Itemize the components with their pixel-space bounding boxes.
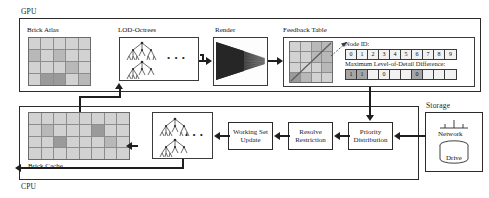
lod-difference-cell: 0	[379, 70, 390, 79]
brick-atlas-cell	[41, 38, 52, 49]
cpu-octree-trees-icon	[153, 113, 214, 160]
brick-cache-cell	[42, 148, 54, 159]
network-label: Network	[438, 130, 463, 138]
lod-difference-cell: 1	[357, 70, 368, 79]
brick-atlas-cell	[54, 62, 65, 73]
conn-cache-to-atlas-v2	[119, 88, 121, 98]
conn-octree-to-render-h	[200, 54, 204, 56]
brick-atlas-cell	[79, 38, 90, 49]
brick-cache-cell	[54, 137, 66, 148]
node-id-cell: 1	[357, 50, 368, 59]
brick-cache-cell	[67, 125, 79, 136]
conn-feedback-to-priority	[369, 99, 371, 115]
brick-cache-cell	[67, 148, 79, 159]
brick-atlas-cell	[79, 74, 90, 85]
conn-cache-to-atlas-v	[79, 96, 81, 112]
brick-atlas-cell	[29, 50, 40, 61]
working-set-update-line2: Update	[233, 136, 268, 145]
brick-cache-cell	[80, 125, 92, 136]
brick-atlas-cell	[41, 50, 52, 61]
brick-cache-cell	[29, 137, 41, 148]
lod-difference-cell	[390, 70, 401, 79]
brick-cache-cell	[80, 113, 92, 124]
conn-storage-to-priority	[400, 135, 426, 137]
brick-cache-cell	[67, 137, 79, 148]
brick-cache-cell	[117, 113, 129, 124]
brick-cache-cell	[92, 125, 104, 136]
brick-atlas-cell	[79, 62, 90, 73]
arrowhead-to-cpu-octree	[214, 132, 220, 140]
priority-distribution-line1: Priority	[354, 128, 388, 137]
brick-cache-cell	[92, 148, 104, 159]
storage-region-label: Storage	[426, 101, 450, 110]
brick-atlas-cell	[41, 62, 52, 73]
node-id-cell: 8	[434, 50, 445, 59]
brick-cache-cell	[54, 125, 66, 136]
feedback-diagonal-icon	[289, 41, 333, 83]
node-id-cell: 2	[368, 50, 379, 59]
resolve-restriction-box[interactable]: Resolve Restriction	[288, 122, 333, 150]
working-set-update-line1: Working Set	[233, 128, 268, 137]
brick-cache-cell	[117, 125, 129, 136]
brick-cache-cell	[54, 148, 66, 159]
brick-atlas-cell	[41, 74, 52, 85]
conn-priority-to-resolve	[340, 135, 350, 137]
conn-cache-to-atlas-h	[79, 96, 121, 98]
brick-cache-cell	[67, 113, 79, 124]
render-preview-image	[214, 38, 267, 85]
conn-working-to-octree	[220, 135, 230, 137]
node-id-cell: 6	[412, 50, 423, 59]
node-id-cell: 3	[379, 50, 390, 59]
brick-cache-cell	[29, 125, 41, 136]
brick-cache-grid	[28, 112, 130, 160]
brick-atlas-cell	[66, 38, 77, 49]
lod-difference-cell: 0	[412, 70, 423, 79]
resolve-restriction-line2: Restriction	[295, 136, 326, 145]
brick-cache-cell	[105, 125, 117, 136]
lod-difference-cell	[445, 70, 456, 79]
arrowhead-to-render	[206, 57, 212, 65]
diagram-canvas: GPU Brick Atlas LOD-Octrees	[0, 0, 489, 198]
gpu-region-label: GPU	[21, 7, 37, 16]
brick-atlas-grid	[28, 37, 91, 86]
brick-cache-cell	[42, 137, 54, 148]
node-id-cell: 5	[401, 50, 412, 59]
node-id-cell: 9	[445, 50, 456, 59]
octree-trees-icon	[120, 38, 200, 82]
node-id-cell: 7	[423, 50, 434, 59]
brick-atlas-label: Brick Atlas	[27, 26, 59, 34]
arrowhead-into-brick-cache	[126, 142, 132, 150]
brick-atlas-cell	[54, 38, 65, 49]
brick-atlas-cell	[66, 74, 77, 85]
brick-cache-cell	[80, 148, 92, 159]
lod-octrees-label: LOD-Octrees	[118, 26, 156, 34]
cpu-lod-octrees-ellipsis: • • •	[185, 130, 204, 140]
network-antenna-icon	[436, 117, 472, 131]
conn-resolve-to-working	[280, 135, 290, 137]
render-box	[213, 37, 268, 86]
drive-label: Drive	[446, 154, 462, 162]
lod-difference-strip: 1100	[345, 69, 457, 80]
brick-atlas-cell	[54, 74, 65, 85]
conn-bottom-to-cache	[20, 167, 184, 169]
priority-distribution-box[interactable]: Priority Distribution	[348, 122, 393, 150]
arrowhead-to-working-set	[274, 132, 280, 140]
brick-cache-cell	[105, 137, 117, 148]
lod-difference-cell	[434, 70, 445, 79]
brick-atlas-cell	[66, 62, 77, 73]
working-set-update-box[interactable]: Working Set Update	[228, 122, 273, 150]
brick-cache-cell	[92, 113, 104, 124]
brick-cache-cell	[29, 148, 41, 159]
arrowhead-to-feedback	[277, 57, 283, 65]
brick-cache-cell	[54, 113, 66, 124]
lod-difference-cell	[423, 70, 434, 79]
arrowhead-priority-from-storage	[394, 132, 400, 140]
feedback-table-label: Feedback Table	[283, 26, 327, 34]
brick-cache-cell	[80, 137, 92, 148]
brick-cache-cell	[42, 125, 54, 136]
lod-octrees-box	[119, 37, 199, 81]
priority-distribution-line2: Distribution	[354, 136, 388, 145]
arrowhead-to-priority	[366, 115, 374, 121]
resolve-restriction-line1: Resolve	[295, 128, 326, 137]
drive-cylinder-icon	[437, 140, 471, 166]
